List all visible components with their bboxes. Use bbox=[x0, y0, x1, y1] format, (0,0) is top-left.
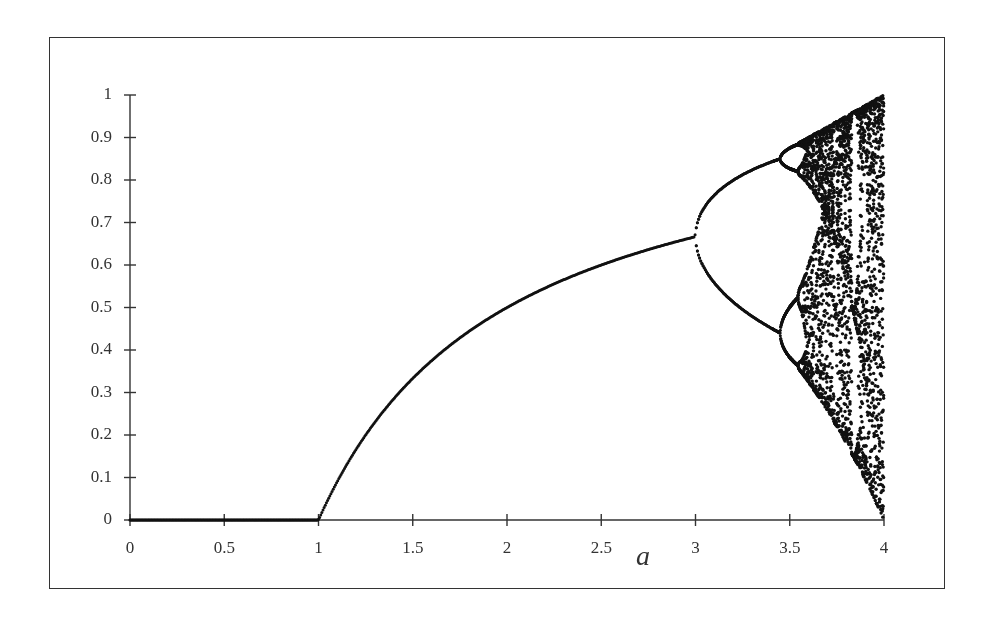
x-tick-label: 3.5 bbox=[765, 538, 815, 558]
y-tick-label: 0.5 bbox=[72, 297, 112, 317]
x-tick-label: 0.5 bbox=[199, 538, 249, 558]
y-tick-label: 1 bbox=[72, 84, 112, 104]
y-tick-label: 0.3 bbox=[72, 382, 112, 402]
y-tick-label: 0.6 bbox=[72, 254, 112, 274]
x-tick-label: 4 bbox=[859, 538, 909, 558]
x-tick-label: 2.5 bbox=[576, 538, 626, 558]
x-tick-label: 1.5 bbox=[388, 538, 438, 558]
x-tick-label: 0 bbox=[105, 538, 155, 558]
y-tick-label: 0.2 bbox=[72, 424, 112, 444]
y-tick-label: 0.9 bbox=[72, 127, 112, 147]
y-tick-label: 0.7 bbox=[72, 212, 112, 232]
x-axis-label: a bbox=[636, 540, 650, 572]
x-tick-label: 3 bbox=[671, 538, 721, 558]
y-tick-label: 0 bbox=[72, 509, 112, 529]
y-tick-label: 0.8 bbox=[72, 169, 112, 189]
x-tick-label: 2 bbox=[482, 538, 532, 558]
y-tick-label: 0.4 bbox=[72, 339, 112, 359]
x-tick-label: 1 bbox=[294, 538, 344, 558]
bifurcation-plot bbox=[0, 0, 989, 625]
y-tick-label: 0.1 bbox=[72, 467, 112, 487]
